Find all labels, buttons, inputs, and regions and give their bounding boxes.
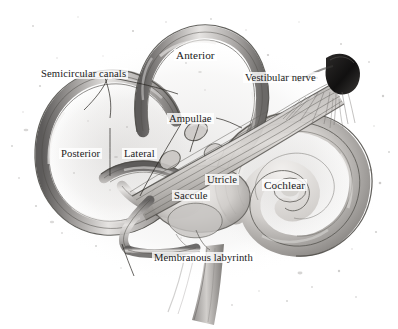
label-semicircular-canals: Semicircular canals xyxy=(39,68,128,79)
label-ampullae: Ampullae xyxy=(167,113,214,124)
label-saccule: Saccule xyxy=(172,190,210,201)
label-membranous-labyrinth: Membranous labyrinth xyxy=(152,252,255,263)
label-lateral: Lateral xyxy=(122,148,157,159)
label-anterior: Anterior xyxy=(174,49,217,61)
label-utricle: Utricle xyxy=(205,174,239,185)
inner-ear-figure: Semicircular canals Anterior Vestibular … xyxy=(0,0,398,329)
label-posterior: Posterior xyxy=(59,148,102,159)
label-vestibular-nerve: Vestibular nerve xyxy=(243,72,318,83)
saccule-sac xyxy=(168,203,222,238)
label-cochlear: Cochlear xyxy=(262,179,307,191)
